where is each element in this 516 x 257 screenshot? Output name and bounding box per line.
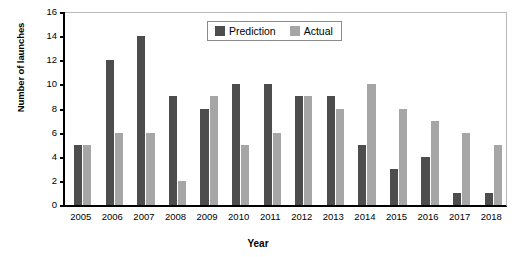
y-axis-tick-mark — [60, 205, 65, 207]
y-axis-tick-label: 2 — [33, 175, 57, 186]
x-axis-tick-label: 2005 — [70, 211, 91, 222]
plot-area: 0246810121416 — [63, 12, 507, 207]
bar-group — [65, 13, 506, 205]
y-axis-tick-label: 8 — [33, 103, 57, 114]
bar-chart: Number of launches 0246810121416 2005200… — [0, 0, 516, 257]
bars-layer — [65, 13, 506, 205]
legend-label: Prediction — [229, 25, 276, 37]
x-axis-tick-label: 2008 — [165, 211, 186, 222]
legend-swatch-icon — [215, 26, 225, 36]
legend-entry-actual: Actual — [290, 25, 333, 37]
x-axis-tick-label: 2018 — [481, 211, 502, 222]
bar-actual-2018 — [494, 145, 502, 205]
legend-label: Actual — [304, 25, 333, 37]
legend-entry-prediction: Prediction — [215, 25, 276, 37]
bar-prediction-2018 — [485, 193, 493, 205]
x-axis-tick-label: 2009 — [196, 211, 217, 222]
y-axis-tick-label: 4 — [33, 151, 57, 162]
y-axis-tick-label: 16 — [33, 6, 57, 17]
x-axis-tick-label: 2016 — [417, 211, 438, 222]
x-axis-tick-label: 2017 — [449, 211, 470, 222]
x-axis-title: Year — [0, 238, 516, 249]
chart-legend: PredictionActual — [207, 21, 342, 41]
x-axis-tick-label: 2010 — [228, 211, 249, 222]
x-axis-tick-label: 2011 — [260, 211, 280, 222]
x-axis-tick-label: 2013 — [323, 211, 344, 222]
y-axis-tick-label: 10 — [33, 78, 57, 89]
x-axis-tick-label: 2007 — [133, 211, 154, 222]
y-axis-title: Number of launches — [15, 0, 26, 138]
y-axis-tick-label: 0 — [33, 199, 57, 210]
y-axis-tick-label: 12 — [33, 54, 57, 65]
x-axis-tick-label: 2006 — [102, 211, 123, 222]
legend-swatch-icon — [290, 26, 300, 36]
x-axis-tick-label: 2015 — [386, 211, 407, 222]
x-axis-tick-label: 2012 — [291, 211, 312, 222]
y-axis-tick-label: 14 — [33, 30, 57, 41]
y-axis-tick-label: 6 — [33, 127, 57, 138]
x-axis-tick-label: 2014 — [354, 211, 375, 222]
